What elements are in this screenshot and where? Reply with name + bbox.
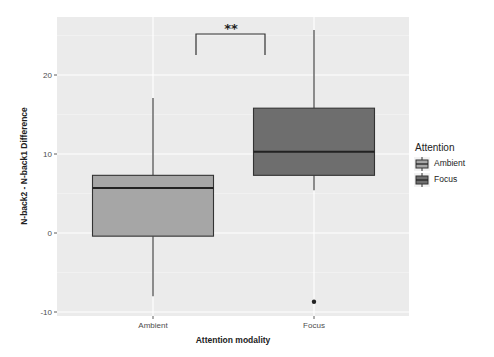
- legend-label-focus: Focus: [434, 174, 457, 184]
- y-tick-label: 10: [43, 150, 52, 159]
- legend-item-ambient[interactable]: Ambient: [414, 157, 466, 171]
- y-tick-label: 0: [48, 229, 53, 238]
- y-axis-ticks: -1001020: [40, 71, 57, 317]
- legend: Attention Ambient Focus: [414, 142, 466, 187]
- y-axis-title: N-back2 - N-back1 Difference: [19, 107, 29, 225]
- x-tick-label: Focus: [303, 321, 325, 330]
- x-tick-label: Ambient: [138, 321, 168, 330]
- significance-label: **: [224, 21, 238, 36]
- legend-key-ambient-icon: [414, 157, 430, 171]
- x-axis-title: Attention modality: [196, 335, 271, 345]
- legend-item-focus[interactable]: Focus: [414, 173, 457, 187]
- x-axis-ticks: AmbientFocus: [138, 316, 325, 330]
- outlier-point: [312, 300, 316, 304]
- y-tick-label: -10: [40, 308, 52, 317]
- legend-key-focus-icon: [414, 173, 430, 187]
- legend-title: Attention: [415, 142, 454, 153]
- y-tick-label: 20: [43, 71, 52, 80]
- legend-label-ambient: Ambient: [434, 158, 466, 168]
- boxplot-chart: -1001020 AmbientFocus ** Attention modal…: [0, 0, 494, 357]
